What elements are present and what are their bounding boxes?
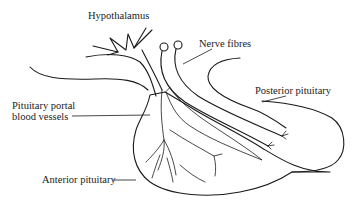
portal-vessels-label-line2: blood vessels xyxy=(12,111,68,122)
hypothalamic-neuron xyxy=(93,28,152,55)
posterior-pituitary-label: Posterior pituitary xyxy=(255,85,332,96)
hypothalamus-label: Hypothalamus xyxy=(88,10,149,21)
pituitary-stalk xyxy=(86,50,162,96)
portal-vessels-label-line1: Pituitary portal xyxy=(12,100,75,111)
hypothalamus-floor-line xyxy=(30,67,148,90)
pituitary-diagram: Hypothalamus Nerve fibres Posterior pitu… xyxy=(0,0,358,204)
posterior-pituitary-leader xyxy=(262,96,286,102)
nerve-fibres-leader xyxy=(183,49,212,64)
anterior-pituitary-label: Anterior pituitary xyxy=(42,174,117,185)
portal-vessels-leader xyxy=(72,115,150,116)
nerve-fibres-label: Nerve fibres xyxy=(199,38,251,49)
posterior-pituitary-shape xyxy=(262,101,344,172)
